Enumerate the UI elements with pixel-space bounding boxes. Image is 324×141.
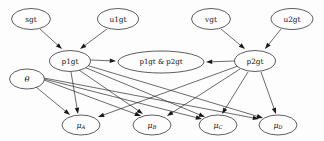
edge-vgt-to-p2gt <box>221 29 245 49</box>
edge-arrowhead <box>64 109 70 115</box>
node-muB[interactable]: μB <box>133 115 171 135</box>
edge-line <box>84 29 107 46</box>
node-theta[interactable]: θ <box>10 69 45 89</box>
node-label-p1gtp2gt: p1gt & p2gt <box>139 58 182 66</box>
node-label-u2gt: u2gt <box>283 15 300 24</box>
node-label-p2gt: p2gt <box>246 57 263 66</box>
node-p1gtp2gt[interactable]: p1gt & p2gt <box>118 51 204 73</box>
node-label-vgt: vgt <box>204 15 217 24</box>
edge-line <box>84 67 200 115</box>
edge-line <box>40 29 58 46</box>
edge-p1gt-to-p1gtp2gt <box>91 59 116 63</box>
edge-arrowhead <box>256 114 263 118</box>
node-label-u1gt: u1gt <box>109 15 126 24</box>
edge-u1gt-to-p1gt <box>80 29 107 49</box>
edge-line <box>261 72 274 109</box>
edge-line <box>268 29 281 45</box>
edge-line <box>36 87 66 112</box>
edge-line <box>171 69 240 113</box>
node-label-sgt: sgt <box>25 15 37 24</box>
edge-line <box>44 80 136 114</box>
edge-p2gt-to-muA <box>98 66 238 117</box>
edges-layer <box>36 29 281 120</box>
edge-arrowhead <box>198 113 205 117</box>
edge-line <box>221 29 241 46</box>
edge-arrowhead <box>80 44 86 49</box>
node-u1gt[interactable]: u1gt <box>98 9 139 30</box>
edge-theta-to-muA <box>36 87 70 115</box>
edge-line <box>225 72 248 110</box>
edge-line <box>211 61 234 62</box>
edge-p1gt-to-muC <box>84 67 205 117</box>
edge-sgt-to-p1gt <box>40 29 62 49</box>
edge-line <box>103 66 238 115</box>
edge-arrowhead <box>206 60 212 64</box>
node-u2gt[interactable]: u2gt <box>271 9 313 30</box>
edge-line <box>91 60 111 61</box>
node-muC[interactable]: μC <box>199 115 237 135</box>
edge-u2gt-to-p2gt <box>265 29 281 49</box>
edge-arrowhead <box>272 107 276 114</box>
edge-arrowhead <box>265 43 271 49</box>
graph-svg: sgtu1gtvgtu2gtp1gtp1gt & p2gtp2gtθμAμBμC… <box>0 0 324 141</box>
nodes-layer: sgtu1gtvgtu2gtp1gtp1gt & p2gtp2gtθμAμBμC… <box>10 9 314 136</box>
edge-p1gt-to-muB <box>79 70 143 114</box>
edge-arrowhead <box>110 59 116 63</box>
edge-arrowhead <box>239 43 245 49</box>
node-label-theta: θ <box>25 74 30 84</box>
node-muA[interactable]: μA <box>62 115 100 135</box>
node-p1gt[interactable]: p1gt <box>50 51 91 72</box>
edge-arrowhead <box>75 108 79 114</box>
edge-p2gt-to-p1gtp2gt <box>206 60 234 64</box>
edge-p2gt-to-muD <box>261 72 276 114</box>
node-p2gt[interactable]: p2gt <box>235 51 276 72</box>
edge-p1gt-to-muD <box>86 65 263 118</box>
node-vgt[interactable]: vgt <box>192 9 231 30</box>
edge-p1gt-to-muA <box>71 72 79 114</box>
diagram-canvas: sgtu1gtvgtu2gtp1gtp1gt & p2gtp2gtθμAμBμC… <box>0 0 324 141</box>
node-muD[interactable]: μD <box>259 115 297 135</box>
node-sgt[interactable]: sgt <box>12 9 51 30</box>
edge-arrowhead <box>98 113 105 117</box>
edge-theta-to-muB <box>44 80 141 116</box>
node-label-p1gt: p1gt <box>61 57 78 66</box>
